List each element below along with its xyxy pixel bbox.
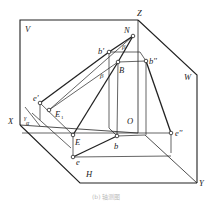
label-e1: E (54, 109, 61, 119)
points (38, 34, 173, 159)
label-e-big: E (74, 137, 81, 147)
label-beta-top: β (121, 43, 126, 51)
label-e1-sub: 1 (61, 115, 64, 120)
caption: (b) 轴测图 (92, 193, 120, 201)
label-y: Y (199, 178, 205, 188)
label-b-h: b (114, 141, 118, 151)
main-lines (40, 36, 171, 157)
label-e-prime: e' (33, 93, 39, 103)
point-b (116, 60, 120, 64)
label-b: B (119, 65, 124, 75)
point-e-double-prime (169, 131, 173, 135)
point-b-h (115, 134, 119, 138)
point-e1 (47, 108, 51, 112)
label-n: N (123, 25, 131, 35)
label-x: X (7, 116, 14, 126)
label-w: W (184, 72, 192, 82)
label-h: H (85, 169, 93, 179)
w-plane-frame (138, 20, 197, 183)
label-e-double-prime: e'' (175, 128, 183, 138)
label-alpha: α (26, 120, 30, 126)
point-e-h (71, 155, 75, 159)
label-beta-mid: β (99, 72, 104, 80)
point-n (131, 34, 135, 38)
point-b-prime (107, 50, 111, 54)
label-o: O (127, 116, 133, 126)
label-v: V (25, 24, 32, 34)
label-b-double-prime: b'' (149, 56, 157, 66)
point-b-double-prime (144, 59, 148, 63)
frame-lines (20, 20, 197, 183)
axonometric-diagram: V Z W X O H Y N b' B b'' e' E 1 E b e e'… (0, 0, 207, 205)
label-b-prime: b' (98, 46, 104, 56)
label-e-h: e (76, 157, 80, 167)
label-z: Z (137, 8, 142, 18)
point-e-prime (38, 101, 42, 105)
